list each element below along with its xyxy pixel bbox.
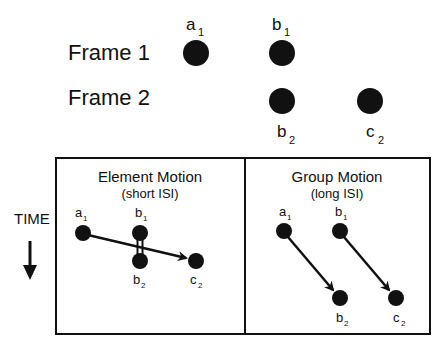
ternus-diagram: Frame 1 Frame 2 a 1 b 1 b 2 c 2 TIME Ele… (0, 0, 443, 346)
svg-text:2: 2 (378, 134, 384, 146)
svg-text:c: c (366, 122, 375, 141)
time-arrow-icon (23, 241, 37, 280)
svg-text:2: 2 (344, 319, 349, 328)
svg-text:a: a (75, 205, 83, 220)
panel-element-motion: Element Motion (short ISI) a 1 b 1 b 2 c… (75, 168, 204, 290)
panel-title: Group Motion (292, 168, 383, 185)
svg-text:2: 2 (141, 281, 146, 290)
svg-text:b: b (336, 310, 343, 325)
svg-text:b: b (272, 15, 281, 34)
panel-group-motion: Group Motion (long ISI) a 1 b 1 b 2 c 2 (276, 168, 406, 328)
svg-text:b: b (335, 204, 342, 219)
svg-text:b: b (133, 272, 140, 287)
svg-text:c: c (393, 310, 400, 325)
panel-title: Element Motion (98, 168, 202, 185)
panel-subtitle: (long ISI) (311, 186, 364, 201)
top-dot-b1: b 1 (269, 15, 295, 66)
svg-text:2: 2 (289, 134, 295, 146)
top-dot-c2: c 2 (357, 88, 384, 146)
svg-text:b: b (135, 205, 142, 220)
svg-text:a: a (186, 15, 196, 34)
svg-text:1: 1 (343, 213, 348, 222)
svg-text:b: b (277, 122, 286, 141)
svg-text:2: 2 (401, 319, 406, 328)
panel-subtitle: (short ISI) (121, 186, 178, 201)
svg-text:1: 1 (198, 26, 204, 38)
svg-text:1: 1 (287, 213, 292, 222)
top-dot-b2: b 2 (269, 88, 295, 146)
svg-text:2: 2 (198, 281, 203, 290)
frame2-label: Frame 2 (68, 85, 150, 110)
svg-text:1: 1 (143, 214, 148, 223)
svg-text:1: 1 (284, 26, 290, 38)
time-label: TIME (14, 210, 50, 227)
svg-text:c: c (190, 272, 197, 287)
svg-text:a: a (279, 204, 287, 219)
svg-text:1: 1 (83, 214, 88, 223)
top-dot-a1: a 1 (183, 15, 209, 66)
frame1-label: Frame 1 (68, 40, 150, 65)
